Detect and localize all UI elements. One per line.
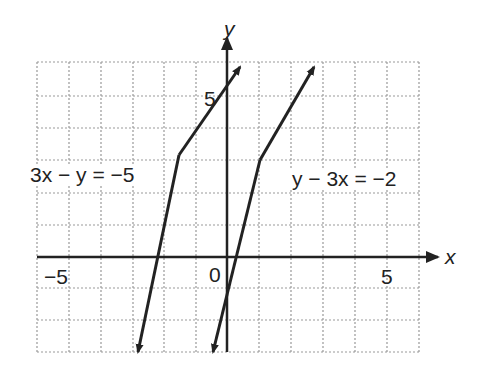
equation-label-1: 3x − y = −5 (28, 164, 137, 185)
origin-label: 0 (209, 264, 221, 285)
line-3x-minus-y-eq-neg5 (138, 155, 179, 352)
x-tick-neg5: −5 (44, 266, 68, 287)
x-axis-label: x (445, 246, 456, 267)
equation-label-2: y − 3x = −2 (290, 168, 399, 189)
line-y-minus-3x-eq-neg2-upper (260, 67, 314, 160)
coordinate-plane (0, 0, 480, 374)
x-tick-5: 5 (381, 266, 393, 287)
line-3x-minus-y-eq-neg5-upper (179, 67, 240, 155)
y-axis-label: y (224, 18, 235, 39)
y-tick-5: 5 (204, 88, 216, 109)
